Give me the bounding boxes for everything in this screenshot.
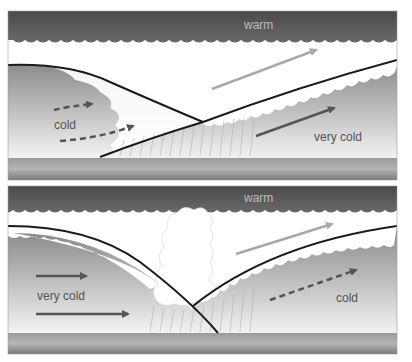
warm-air-band (8, 11, 397, 43)
ground-top (8, 158, 397, 180)
label-warm-top: warm (243, 18, 273, 32)
occlusion-diagram: warm cold very cold (0, 0, 412, 362)
label-cold-bottom: cold (336, 291, 358, 305)
label-very-cold-top: very cold (314, 130, 362, 144)
ground-bottom (8, 333, 397, 354)
label-warm-bottom: warm (243, 191, 273, 205)
label-very-cold-bottom: very cold (37, 289, 85, 303)
label-cold-top: cold (54, 118, 76, 132)
panel-bottom: warm very cold cold (1, 186, 397, 354)
panel-top: warm cold very cold (8, 11, 397, 180)
